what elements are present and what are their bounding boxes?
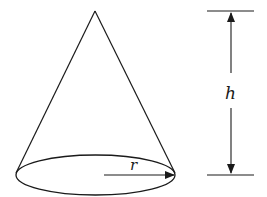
cone — [16, 11, 175, 195]
cone-diagram: r h — [0, 0, 267, 197]
cone-left-slant-edge — [16, 11, 95, 173]
height-indicator: h — [207, 11, 254, 175]
cone-right-slant-edge — [95, 11, 175, 173]
radius-label: r — [130, 156, 138, 174]
height-label: h — [225, 83, 236, 103]
